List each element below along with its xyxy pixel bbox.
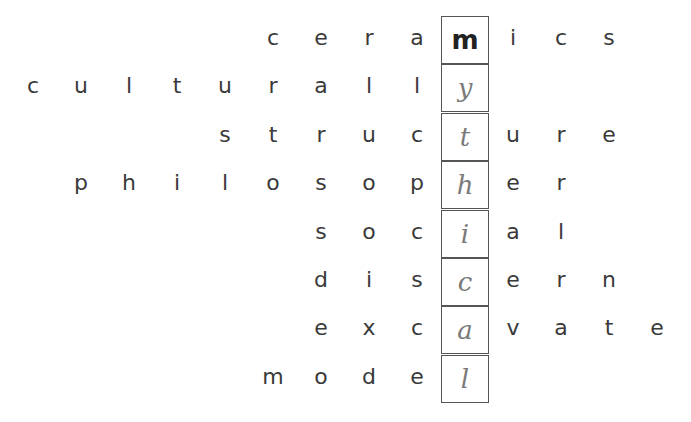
letter: e: [297, 304, 345, 352]
letter: t: [585, 304, 633, 352]
letter: e: [585, 111, 633, 159]
letter: o: [345, 208, 393, 256]
letter: u: [345, 111, 393, 159]
answer-box[interactable]: i: [441, 210, 489, 258]
letter: c: [393, 111, 441, 159]
letter: i: [345, 256, 393, 304]
letter: e: [297, 14, 345, 62]
letter: t: [153, 62, 201, 110]
letter: a: [537, 304, 585, 352]
letter: v: [489, 304, 537, 352]
letter: n: [585, 256, 633, 304]
letter: u: [57, 62, 105, 110]
letter: r: [297, 111, 345, 159]
letter: i: [153, 159, 201, 207]
letter: l: [105, 62, 153, 110]
letter: p: [393, 159, 441, 207]
letter: o: [249, 159, 297, 207]
answer-box[interactable]: h: [441, 161, 489, 209]
letter: l: [345, 62, 393, 110]
answer-box[interactable]: y: [441, 64, 489, 112]
letter: a: [297, 62, 345, 110]
letter: r: [345, 14, 393, 62]
letter: o: [297, 353, 345, 401]
letter: c: [537, 14, 585, 62]
letter: d: [297, 256, 345, 304]
letter: e: [633, 304, 681, 352]
letter: m: [249, 353, 297, 401]
letter: s: [297, 159, 345, 207]
letter: c: [393, 304, 441, 352]
letter: l: [393, 62, 441, 110]
letter: c: [249, 14, 297, 62]
answer-box: m: [441, 16, 489, 64]
letter: c: [393, 208, 441, 256]
letter: o: [345, 159, 393, 207]
letter: d: [345, 353, 393, 401]
letter: x: [345, 304, 393, 352]
letter: s: [393, 256, 441, 304]
letter: u: [201, 62, 249, 110]
answer-box[interactable]: t: [441, 113, 489, 161]
letter: e: [489, 159, 537, 207]
answer-box[interactable]: l: [441, 355, 489, 403]
letter: p: [57, 159, 105, 207]
letter: l: [201, 159, 249, 207]
letter: r: [249, 62, 297, 110]
letter: c: [9, 62, 57, 110]
letter: r: [537, 111, 585, 159]
letter: r: [537, 159, 585, 207]
letter: s: [201, 111, 249, 159]
letter: l: [537, 208, 585, 256]
letter: a: [393, 14, 441, 62]
letter: h: [105, 159, 153, 207]
letter: u: [489, 111, 537, 159]
answer-box[interactable]: c: [441, 258, 489, 306]
letter: r: [537, 256, 585, 304]
letter: t: [249, 111, 297, 159]
letter: e: [393, 353, 441, 401]
answer-box[interactable]: a: [441, 306, 489, 354]
letter: s: [585, 14, 633, 62]
letter: s: [297, 208, 345, 256]
letter: a: [489, 208, 537, 256]
letter: i: [489, 14, 537, 62]
letter: e: [489, 256, 537, 304]
